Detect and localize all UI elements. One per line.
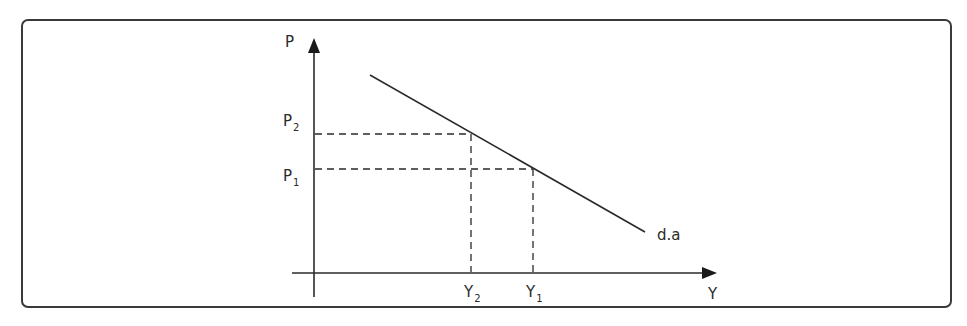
p2-y2-guides [315,134,471,272]
output-label-y1: Y1 [525,283,543,304]
price-label-p2: P2 [283,112,299,133]
p1-y1-guides [315,169,533,272]
horizontal-axis [292,267,717,279]
ad-diagram: P Y P2 P1 Y2 Y1 d.a [0,0,967,326]
vertical-axis-label: P [285,33,294,51]
price-label-p1: P1 [283,167,299,188]
horizontal-axis-label: Y [707,285,718,303]
arrow-up-icon [308,38,320,53]
curve-label: d.a [657,226,680,244]
arrow-right-icon [702,267,717,279]
demand-curve [370,75,645,232]
vertical-axis [308,38,320,297]
output-label-y2: Y2 [463,283,481,304]
